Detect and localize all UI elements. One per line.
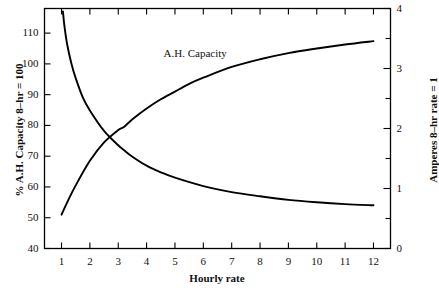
y-tick-label-right: 4 bbox=[397, 2, 431, 14]
x-tick-label: 2 bbox=[75, 255, 105, 267]
x-tick-label: 4 bbox=[132, 255, 162, 267]
x-tick-label: 10 bbox=[302, 255, 332, 267]
series-annotation-ah-capacity: A.H. Capacity bbox=[164, 47, 227, 59]
x-tick-label: 5 bbox=[160, 255, 190, 267]
y-axis-left-ticks bbox=[45, 33, 51, 248]
y-axis-right-ticks bbox=[384, 9, 391, 249]
top-axis-ticks bbox=[62, 9, 374, 15]
x-tick-label: 8 bbox=[245, 255, 275, 267]
x-axis-title: Hourly rate bbox=[44, 272, 390, 284]
data-curves bbox=[62, 12, 374, 215]
y-tick-label-left: 40 bbox=[5, 242, 39, 254]
x-tick-label: 9 bbox=[273, 255, 303, 267]
curve-amperes bbox=[63, 12, 374, 206]
x-tick-label: 11 bbox=[330, 255, 360, 267]
x-tick-label: 7 bbox=[217, 255, 247, 267]
x-tick-label: 6 bbox=[188, 255, 218, 267]
y-tick-label-right: 2 bbox=[397, 122, 431, 134]
y-tick-label-right: 1 bbox=[397, 182, 431, 194]
y-tick-label-right: 3 bbox=[397, 62, 431, 74]
x-tick-label: 1 bbox=[47, 255, 77, 267]
y-tick-label-right: 0 bbox=[397, 242, 431, 254]
x-axis-ticks bbox=[62, 243, 374, 249]
x-tick-label: 12 bbox=[358, 255, 388, 267]
x-tick-label: 3 bbox=[103, 255, 133, 267]
y-axis-right-title: Amperes 8–hr rate = 1 bbox=[427, 35, 439, 225]
y-axis-left-title: % A.H. Capacity 8–hr = 100 bbox=[13, 35, 25, 225]
